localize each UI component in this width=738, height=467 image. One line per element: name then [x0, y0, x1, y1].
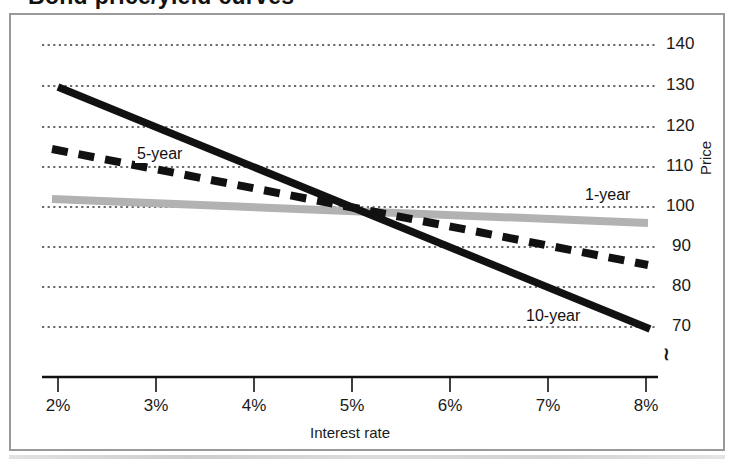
plot-area: 140 130 120 110 100 90 80 70 ≀ Price 2% …: [0, 0, 738, 467]
ytick-label-80: 80: [672, 276, 691, 296]
xtick-label-8: 8%: [634, 396, 659, 416]
xtick-label-5: 5%: [340, 396, 365, 416]
gridlines: [42, 45, 658, 327]
y-axis-label: Price: [697, 141, 714, 175]
ytick-label-110: 110: [666, 156, 693, 176]
scan-edge-artifact: [9, 455, 725, 459]
x-axis-label: Interest rate: [310, 424, 390, 441]
ytick-label-120: 120: [666, 116, 694, 136]
series-label-10-year: 10-year: [524, 307, 582, 325]
xtick-label-6: 6%: [438, 396, 463, 416]
xtick-label-3: 3%: [144, 396, 169, 416]
series-label-5-year: 5-year: [135, 145, 184, 163]
series-label-1-year: 1-year: [583, 186, 632, 204]
ytick-label-100: 100: [666, 196, 694, 216]
series-line-10-year: [58, 87, 650, 329]
axis-break-icon: ≀: [663, 345, 670, 363]
chart-screenshot: Bond price/yield curves: [0, 0, 738, 467]
xtick-label-2: 2%: [46, 396, 71, 416]
chart-canvas: [0, 0, 738, 467]
ytick-label-130: 130: [666, 75, 694, 95]
ytick-label-90: 90: [672, 236, 691, 256]
ytick-label-140: 140: [666, 34, 694, 54]
x-axis-ticks: [58, 377, 646, 392]
xtick-label-7: 7%: [536, 396, 561, 416]
ytick-label-70: 70: [672, 316, 691, 336]
xtick-label-4: 4%: [242, 396, 267, 416]
